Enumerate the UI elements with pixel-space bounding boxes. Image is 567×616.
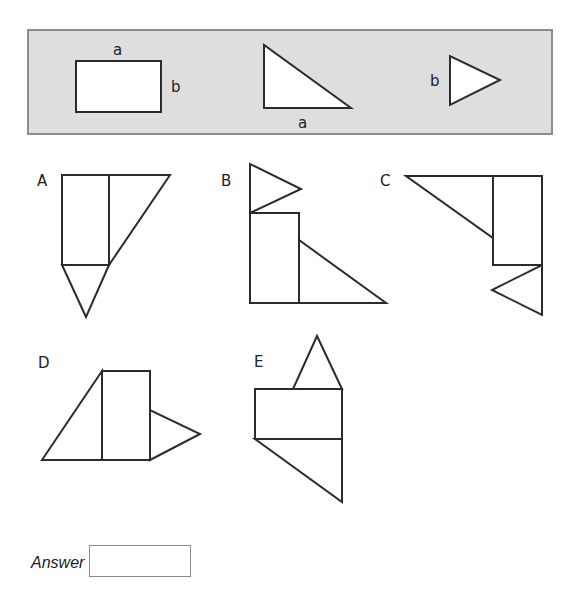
option-a-rectangle [62, 175, 109, 265]
option-a[interactable]: A [37, 172, 170, 317]
answer-label: Answer [31, 554, 84, 572]
option-e[interactable]: E [254, 336, 342, 502]
option-b-small-triangle [250, 164, 301, 213]
option-c-label: C [380, 172, 390, 190]
option-b[interactable]: B [221, 164, 386, 303]
option-c-rectangle [493, 176, 542, 265]
option-c[interactable]: C [380, 172, 542, 315]
answer-input[interactable] [89, 545, 191, 577]
option-e-label: E [254, 353, 263, 371]
reference-panel: a b a b [28, 30, 552, 134]
option-a-right-triangle [109, 175, 170, 265]
option-d[interactable]: D [38, 354, 200, 460]
rectangle-label-b: b [171, 78, 181, 96]
puzzle-canvas: a b a b A B C D [0, 0, 567, 616]
option-a-label: A [37, 172, 48, 190]
option-d-rectangle [102, 371, 150, 460]
option-d-right-triangle [42, 371, 102, 460]
rectangle-label-a: a [113, 41, 122, 59]
option-c-right-triangle [406, 176, 493, 238]
option-e-small-triangle [293, 336, 342, 389]
option-b-rectangle [250, 213, 299, 303]
option-b-right-triangle [299, 240, 386, 303]
small-triangle-label-b: b [430, 72, 440, 90]
option-b-label: B [221, 172, 231, 190]
option-d-label: D [38, 354, 50, 372]
option-d-small-triangle [150, 410, 200, 460]
option-e-rectangle [255, 389, 342, 439]
rectangle-shape [76, 61, 161, 112]
option-a-small-triangle [62, 265, 109, 317]
option-c-small-triangle [492, 265, 542, 315]
right-triangle-label-a: a [298, 114, 307, 132]
option-e-right-triangle [255, 439, 342, 502]
